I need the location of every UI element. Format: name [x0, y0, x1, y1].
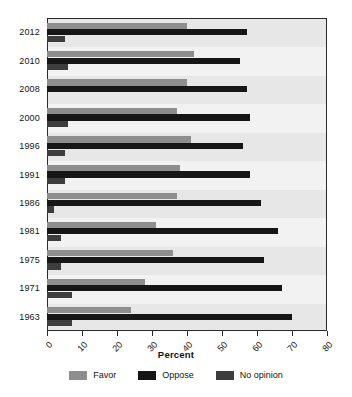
legend-label: No opinion	[240, 370, 283, 380]
y-axis-tick-label: 1996	[19, 141, 40, 151]
y-axis-tick-label: 1986	[19, 198, 40, 208]
y-axis-tick-label: 1991	[19, 170, 40, 180]
legend-label: Favor	[93, 370, 116, 380]
y-axis-tick-label: 1975	[19, 255, 40, 265]
y-axis-tick-label: 2008	[19, 84, 40, 94]
x-axis-title: Percent	[0, 349, 352, 360]
plot-row-band	[48, 247, 326, 275]
plot-row-band	[48, 275, 326, 303]
y-axis-labels: 2012201020082000199619911986198119751971…	[0, 18, 44, 331]
plot-row-band	[48, 47, 326, 75]
legend-item: Favor	[69, 370, 116, 380]
plot-row-band	[48, 218, 326, 246]
legend-label: Oppose	[162, 370, 194, 380]
bar-chart-figure: 2012201020082000199619911986198119751971…	[0, 0, 352, 397]
plot-row-band	[48, 19, 326, 47]
legend-swatch-icon	[138, 371, 156, 380]
y-axis-tick-label: 1963	[19, 312, 40, 322]
y-axis-tick-label: 1971	[19, 283, 40, 293]
chart-legend: FavorOpposeNo opinion	[0, 370, 352, 380]
plot-row-band	[48, 304, 326, 331]
legend-item: Oppose	[138, 370, 194, 380]
plot-row-band	[48, 161, 326, 189]
legend-swatch-icon	[216, 371, 234, 380]
legend-swatch-icon	[69, 371, 87, 380]
plot-row-band	[48, 133, 326, 161]
plot-row-band	[48, 76, 326, 104]
legend-item: No opinion	[216, 370, 283, 380]
y-axis-tick-label: 2000	[19, 113, 40, 123]
plot-row-band	[48, 190, 326, 218]
y-axis-tick-label: 2010	[19, 56, 40, 66]
plot-area	[47, 18, 327, 331]
plot-row-band	[48, 104, 326, 132]
y-axis-tick-label: 2012	[19, 27, 40, 37]
y-axis-tick-label: 1981	[19, 226, 40, 236]
